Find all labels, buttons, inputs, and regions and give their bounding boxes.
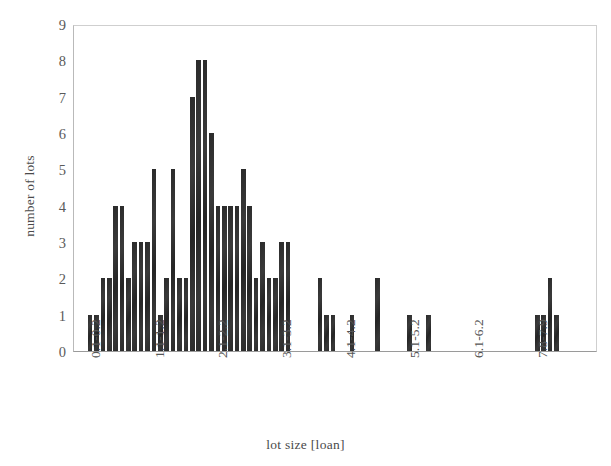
x-tick-label: 4.1-4.2 (343, 288, 359, 358)
bar (203, 60, 208, 351)
bar (260, 242, 265, 351)
bar (184, 278, 189, 351)
bar (171, 169, 176, 351)
y-tick-label: 3 (38, 236, 66, 251)
bar (554, 315, 559, 351)
y-axis-tick-labels: 0123456789 (36, 0, 66, 466)
x-tick-label: 0.1-0.2 (88, 288, 104, 358)
bar (196, 60, 201, 351)
bar (241, 169, 246, 351)
y-tick-label: 6 (38, 127, 66, 142)
bar (247, 206, 252, 351)
y-tick-label: 2 (38, 272, 66, 287)
x-tick-label: 7.8-7.9 (535, 288, 551, 358)
bar (132, 242, 137, 351)
y-tick-label: 0 (38, 345, 66, 360)
bar (209, 133, 214, 351)
y-tick-label: 9 (38, 18, 66, 33)
x-axis-tick-labels: 0.1-0.21.1-1.22.1-2.23.1-3.24.1-4.25.1-5… (73, 352, 597, 432)
bar (177, 278, 182, 351)
bar (113, 206, 118, 351)
histogram-figure: number of lots 0123456789 0.1-0.21.1-1.2… (0, 0, 611, 466)
y-tick-label: 1 (38, 309, 66, 324)
y-tick-label: 8 (38, 54, 66, 69)
x-tick-label: 6.1-6.2 (471, 288, 487, 358)
bar (120, 206, 125, 351)
bar (235, 206, 240, 351)
x-tick-label: 5.1-5.2 (407, 288, 423, 358)
bar (273, 278, 278, 351)
bar (145, 242, 150, 351)
y-tick-label: 5 (38, 163, 66, 178)
bar (139, 242, 144, 351)
bar (331, 315, 336, 351)
y-tick-label: 7 (38, 91, 66, 106)
bar (375, 278, 380, 351)
bar (126, 278, 131, 351)
bar (324, 315, 329, 351)
bar (107, 278, 112, 351)
x-tick-label: 1.1-1.2 (152, 288, 168, 358)
x-axis-title: lot size [loan] (0, 437, 611, 453)
bar (318, 278, 323, 351)
x-tick-label: 2.1-2.2 (215, 288, 231, 358)
bar (254, 278, 259, 351)
bar (190, 97, 195, 351)
x-tick-label: 3.1-3.2 (279, 288, 295, 358)
y-tick-label: 4 (38, 200, 66, 215)
bar (426, 315, 431, 351)
bar (267, 278, 272, 351)
